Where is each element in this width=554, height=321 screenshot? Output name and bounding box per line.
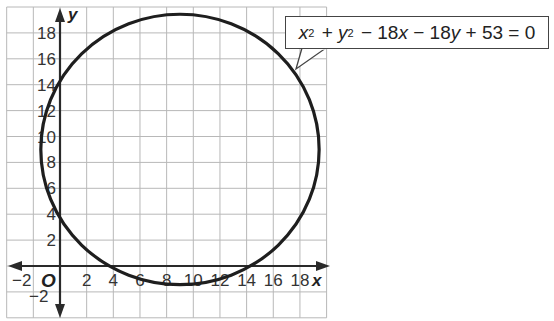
equation-callout: x2 + y2 − 18x − 18y + 53 = 0	[285, 16, 549, 49]
circle-curve	[41, 14, 319, 284]
svg-text:16: 16	[264, 271, 283, 290]
svg-text:16: 16	[37, 50, 56, 69]
svg-text:x: x	[311, 271, 323, 290]
svg-text:4: 4	[109, 271, 118, 290]
svg-text:10: 10	[184, 271, 203, 290]
svg-text:18: 18	[290, 271, 309, 290]
svg-text:O: O	[41, 270, 56, 291]
svg-text:2: 2	[47, 231, 56, 250]
svg-text:8: 8	[162, 271, 171, 290]
svg-text:8: 8	[47, 153, 56, 172]
svg-text:2: 2	[82, 271, 91, 290]
svg-text:y: y	[67, 5, 79, 24]
callout-x: x	[299, 22, 309, 44]
svg-text:18: 18	[37, 24, 56, 43]
svg-text:14: 14	[237, 271, 256, 290]
